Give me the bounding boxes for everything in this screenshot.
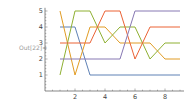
chart-axes: 246812345 (39, 7, 184, 101)
line-chart: 246812345 (0, 0, 189, 103)
y-tick-label: 4 (39, 23, 43, 31)
x-tick-label: 2 (73, 93, 77, 101)
y-tick-label: 3 (39, 39, 43, 47)
x-tick-label: 6 (133, 93, 137, 101)
y-tick-label: 2 (39, 55, 43, 63)
series-1-line (60, 27, 180, 75)
chart-series (60, 11, 180, 75)
x-tick-label: 4 (103, 93, 107, 101)
y-tick-label: 1 (39, 71, 43, 79)
x-tick-label: 8 (163, 93, 167, 101)
y-tick-label: 5 (39, 7, 43, 15)
